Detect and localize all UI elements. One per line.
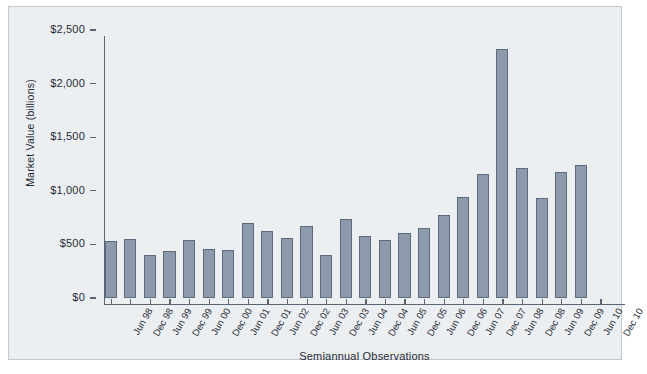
x-tick-mark <box>385 299 386 304</box>
x-tick-mark <box>404 299 405 304</box>
bar <box>438 215 450 298</box>
bar <box>163 251 175 298</box>
x-tick-mark <box>463 299 464 304</box>
bar <box>575 165 587 298</box>
x-tick-mark <box>111 299 112 304</box>
chart-panel: Market Value (billions) $0$500$1,000$1,5… <box>8 6 622 360</box>
x-tick-mark <box>150 299 151 304</box>
x-tick-mark <box>365 299 366 304</box>
x-tick-mark <box>483 299 484 304</box>
x-tick-mark <box>522 299 523 304</box>
bar <box>300 226 312 298</box>
x-tick-mark <box>444 299 445 304</box>
x-tick-mark <box>248 299 249 304</box>
bar <box>183 240 195 298</box>
bar <box>516 168 528 298</box>
bar <box>144 255 156 298</box>
bar <box>261 231 273 298</box>
bar <box>203 249 215 298</box>
y-tick-mark <box>90 29 96 30</box>
y-tick-label: $1,500 <box>9 130 85 142</box>
bar <box>359 236 371 298</box>
y-tick-mark <box>90 83 96 84</box>
bar <box>340 219 352 298</box>
x-tick-mark <box>561 299 562 304</box>
y-tick-label: $500 <box>9 237 85 249</box>
x-tick-mark <box>228 299 229 304</box>
y-tick-label: $1,000 <box>9 184 85 196</box>
bar <box>536 198 548 298</box>
bar <box>105 241 117 298</box>
y-tick-mark <box>90 244 96 245</box>
x-axis-title: Semiannual Observations <box>104 350 625 362</box>
bar <box>281 238 293 298</box>
y-tick-label: $2,000 <box>9 77 85 89</box>
x-tick-mark <box>502 299 503 304</box>
x-axis-line <box>104 304 625 305</box>
x-tick-mark <box>346 299 347 304</box>
x-tick-mark <box>424 299 425 304</box>
bar <box>496 49 508 298</box>
x-tick-mark <box>600 299 601 304</box>
bar <box>477 174 489 298</box>
x-tick-mark <box>581 299 582 304</box>
x-tick-mark <box>209 299 210 304</box>
x-tick-mark <box>307 299 308 304</box>
bar <box>457 197 469 298</box>
bar <box>418 228 430 298</box>
bar <box>555 172 567 298</box>
x-tick-mark <box>326 299 327 304</box>
y-tick-mark <box>90 297 96 298</box>
y-tick-label: $2,500 <box>9 23 85 35</box>
bar <box>222 250 234 298</box>
chart-figure: Market Value (billions) $0$500$1,000$1,5… <box>0 0 647 374</box>
x-tick-mark <box>267 299 268 304</box>
x-tick-mark <box>287 299 288 304</box>
y-tick-mark <box>90 137 96 138</box>
x-tick-mark <box>130 299 131 304</box>
x-tick-mark <box>189 299 190 304</box>
y-tick-label: $0 <box>9 291 85 303</box>
bar <box>124 239 136 298</box>
bar <box>242 223 254 298</box>
x-tick-mark <box>542 299 543 304</box>
y-tick-mark <box>90 190 96 191</box>
bar <box>398 233 410 298</box>
bar <box>320 255 332 298</box>
bar <box>379 240 391 298</box>
x-tick-mark <box>169 299 170 304</box>
x-tick-label: Dec 08 <box>542 306 567 338</box>
